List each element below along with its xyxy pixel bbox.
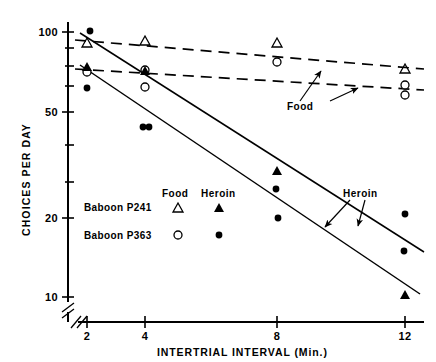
y-axis-title: CHOICES PER DAY	[20, 123, 32, 236]
data-point-filled-circle	[401, 248, 408, 255]
legend-marker-filled-circle	[216, 232, 223, 239]
x-axis-title: INTERTRIAL INTERVAL (Min.)	[157, 346, 328, 358]
data-point-open-circle	[401, 91, 409, 99]
food-annotation-arrow-1	[300, 71, 321, 101]
legend-marker-filled-triangle	[214, 203, 224, 212]
data-point-filled-circle	[402, 211, 409, 218]
points-p241-heroin	[82, 62, 410, 299]
data-point-filled-circle	[273, 186, 280, 193]
data-point-filled-circle	[140, 124, 147, 131]
y-tick-label-10: 10	[26, 291, 58, 303]
axis-break-marks	[62, 303, 87, 328]
fit-lines-food	[75, 40, 424, 90]
data-point-open-triangle	[272, 38, 282, 47]
legend-row-label-p241: Baboon P241	[84, 202, 152, 213]
fit-line-heroin-p363	[80, 33, 424, 252]
data-point-filled-triangle	[400, 290, 410, 299]
legend-marker-open-triangle	[173, 203, 183, 212]
legend-header-food: Food	[162, 188, 188, 199]
food-annotation-label: Food	[287, 101, 313, 112]
x-tick-label-2: 2	[73, 330, 101, 342]
data-point-filled-circle	[275, 215, 282, 222]
legend-row-label-p363: Baboon P363	[84, 230, 152, 241]
heroin-annotation-arrow-1	[325, 200, 350, 227]
annotation-arrows	[300, 71, 365, 227]
fit-line-food-p363	[75, 69, 424, 90]
x-tick-label-8: 8	[263, 330, 291, 342]
heroin-annotation-label: Heroin	[343, 188, 378, 199]
data-point-filled-circle	[146, 124, 153, 131]
fit-line-heroin-p241	[80, 65, 420, 294]
legend-marker-open-circle	[174, 231, 182, 239]
data-point-open-triangle	[140, 36, 150, 45]
chart-plot-area	[0, 0, 436, 362]
legend-markers	[173, 203, 224, 239]
x-tick-label-4: 4	[131, 330, 159, 342]
data-point-filled-triangle	[272, 166, 282, 175]
data-point-open-circle	[401, 81, 409, 89]
data-point-filled-circle	[84, 85, 91, 92]
data-point-open-circle	[273, 58, 281, 66]
legend-header-heroin: Heroin	[201, 188, 236, 199]
data-point-filled-circle	[87, 28, 94, 35]
chart-figure: 100 50 20 10 2 4 8 12 CHOICES PER DAY IN…	[0, 0, 436, 362]
data-point-open-circle	[141, 83, 149, 91]
food-annotation-arrow-2	[330, 88, 358, 101]
axis-lines	[68, 22, 424, 322]
y-tick-label-100: 100	[26, 26, 58, 38]
fit-line-food-p241	[75, 40, 424, 69]
y-tick-label-50: 50	[26, 106, 58, 118]
x-tick-label-12: 12	[391, 330, 419, 342]
